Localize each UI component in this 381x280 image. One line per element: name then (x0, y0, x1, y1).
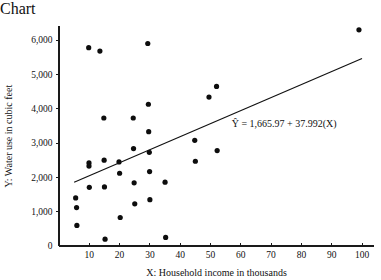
data-point (163, 235, 168, 240)
data-point (192, 138, 197, 143)
data-point (214, 84, 219, 89)
x-axis-tick-label: 50 (206, 250, 216, 260)
data-points-layer (73, 27, 362, 242)
x-axis-tick-label: 40 (175, 250, 185, 260)
data-point (102, 237, 107, 242)
data-point (86, 45, 91, 50)
x-axis-tick-label: 70 (266, 250, 276, 260)
data-point (147, 197, 152, 202)
x-axis: 102030405060708090100 (59, 243, 374, 261)
y-axis-tick-label: 1,000 (31, 207, 53, 217)
data-point (86, 163, 91, 168)
y-axis-tick-label: 3,000 (31, 138, 53, 148)
data-point (118, 215, 123, 220)
regression-equation: Ŷ = 1,665.97 + 37.992(X) (232, 118, 337, 130)
data-point (193, 159, 198, 164)
x-axis-tick-label: 10 (85, 250, 95, 260)
data-point (73, 195, 78, 200)
y-axis-tick-label: 2,000 (31, 173, 53, 183)
y-axis-tick-label: 6,000 (31, 35, 53, 45)
y-axis: 01,0002,0003,0004,0005,0006,000 (31, 26, 59, 251)
x-axis-tick-label: 90 (327, 250, 337, 260)
data-point (162, 180, 167, 185)
data-point (131, 115, 136, 120)
data-point (131, 146, 136, 151)
data-point (101, 115, 106, 120)
data-point (97, 48, 102, 53)
data-point (74, 205, 79, 210)
x-axis-tick-label: 100 (355, 250, 370, 260)
data-point (356, 27, 361, 32)
annotations-layer: Ŷ = 1,665.97 + 37.992(X) (232, 118, 337, 130)
y-axis-tick-label: 5,000 (31, 70, 53, 80)
data-point (206, 94, 211, 99)
plot-canvas: 01,0002,0003,0004,0005,0006,000 10203040… (0, 18, 381, 280)
data-point (102, 184, 107, 189)
y-axis-tick-label: 0 (48, 241, 53, 251)
scatter-plot-figure: 01,0002,0003,0004,0005,0006,000 10203040… (0, 18, 381, 280)
x-axis-tick-label: 30 (145, 250, 155, 260)
data-point (132, 201, 137, 206)
x-axis-title: X: Household income in thousands (146, 267, 287, 278)
data-point (146, 129, 151, 134)
data-point (117, 171, 122, 176)
x-axis-tick-label: 60 (236, 250, 246, 260)
x-axis-tick-label: 80 (297, 250, 307, 260)
data-point (147, 169, 152, 174)
data-point (74, 223, 79, 228)
data-point (87, 185, 92, 190)
data-point (215, 148, 220, 153)
y-axis-tick-label: 4,000 (31, 104, 53, 114)
data-point (102, 158, 107, 163)
y-axis-title: Y: Water use in cubic feet (3, 85, 14, 188)
data-point (146, 102, 151, 107)
data-point (145, 41, 150, 46)
data-point (132, 180, 137, 185)
x-axis-tick-label: 20 (115, 250, 125, 260)
